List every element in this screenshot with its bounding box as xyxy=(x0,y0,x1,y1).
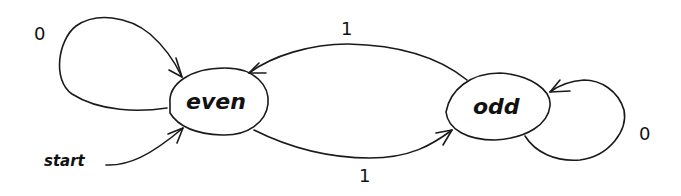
state-odd: odd xyxy=(446,73,550,140)
state-even-label: even xyxy=(186,89,246,114)
transition-label: 1 xyxy=(341,18,352,39)
start-transition: start xyxy=(44,128,183,170)
state-odd-label: odd xyxy=(473,94,520,119)
transition-label: 1 xyxy=(359,165,370,186)
start-label: start xyxy=(44,152,86,170)
transition-even-odd: 1 xyxy=(254,130,452,186)
state-even: even xyxy=(170,68,268,135)
state-diagram: even odd 0 1 1 0 start xyxy=(0,0,681,196)
transition-label: 0 xyxy=(639,123,650,144)
transition-label: 0 xyxy=(34,23,45,44)
transition-odd-even: 1 xyxy=(249,18,467,80)
transition-even-even: 0 xyxy=(34,18,182,111)
